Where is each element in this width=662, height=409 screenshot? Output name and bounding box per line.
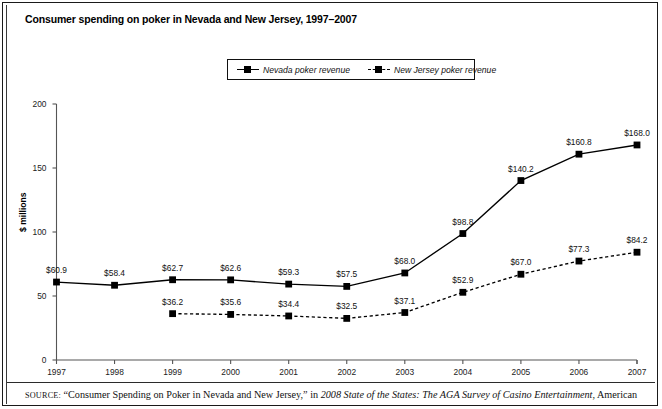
figure-panel: Consumer spending on poker in Nevada and… <box>0 0 662 409</box>
source-in-word: in <box>310 389 318 400</box>
line-chart-plot <box>0 0 662 409</box>
footer-divider <box>7 382 655 383</box>
source-label: SOURCE: <box>25 391 61 400</box>
source-quoted-title: “Consumer Spending on Poker in Nevada an… <box>64 389 308 400</box>
source-note: SOURCE: “Consumer Spending on Poker in N… <box>25 389 652 400</box>
source-publication: 2008 State of the States: The AGA Survey… <box>321 389 593 400</box>
source-tail: , American <box>592 389 637 400</box>
